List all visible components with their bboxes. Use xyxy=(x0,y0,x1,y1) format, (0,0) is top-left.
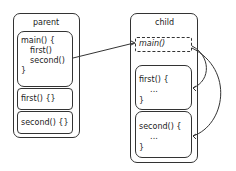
override-arrow xyxy=(73,43,134,58)
arrows xyxy=(0,0,236,171)
call-second-arrow xyxy=(192,48,221,136)
